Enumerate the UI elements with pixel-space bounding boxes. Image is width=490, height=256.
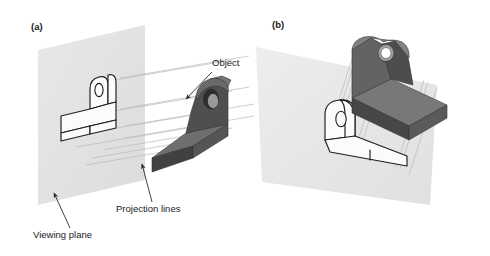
panel-tag-b: (b) (272, 19, 284, 30)
callout-projection-lines-label: Projection lines (116, 203, 181, 214)
panel-tag-a: (a) (31, 21, 43, 32)
figure-root: (a) Object Projection lines Viewing plan… (0, 0, 490, 256)
projected-hole-a (95, 83, 103, 96)
projection-diagram: (a) Object Projection lines Viewing plan… (0, 0, 490, 256)
projected-hole-b (336, 111, 346, 127)
callout-object-label: Object (212, 57, 240, 68)
callout-viewing-plane-label: Viewing plane (33, 229, 92, 240)
